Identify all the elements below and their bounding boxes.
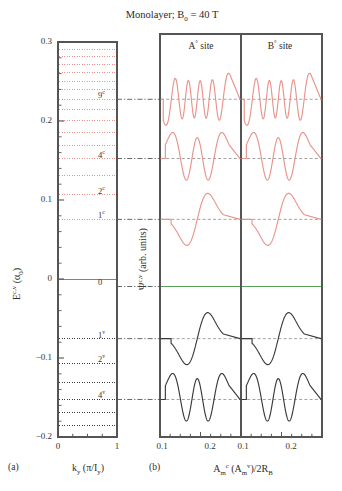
left-axis-xlabel: ky (π/Iy): [72, 462, 104, 475]
left-xtick-0: 0: [56, 441, 61, 451]
right-axis-ylabel: Ψc,v (arb. units): [136, 228, 148, 290]
left-xtick-1: 1: [115, 441, 120, 451]
level-label-4c: 4c: [98, 149, 105, 160]
left-ytick-neg0.1: −0.1: [36, 352, 52, 362]
left-ytick-0.1: 0.1: [41, 194, 52, 204]
right-axis-xlabel: Amc (Amv)/2RB: [213, 462, 273, 476]
site-a-label: A° site: [188, 39, 213, 51]
level-label-2c: 2c: [98, 185, 105, 196]
left-ytick-0.2: 0.2: [41, 115, 52, 125]
left-ytick-0.3: 0.3: [41, 36, 52, 46]
panel-b-tag: (b): [149, 462, 160, 472]
right-xtick-3: 0.2: [286, 441, 297, 451]
right-xtick-1: 0.2: [205, 441, 216, 451]
figure-canvas: [0, 0, 342, 491]
figure-title: Monolayer; B0 = 40 T: [126, 9, 219, 23]
level-label-0: 0: [98, 277, 102, 287]
level-ellipsis-top: ···: [116, 62, 119, 77]
left-axis-ylabel: Ec,v (α0): [10, 268, 24, 300]
right-xtick-0: 0.1: [156, 441, 167, 451]
level-label-4v: 4v: [98, 389, 105, 400]
right-xtick-2: 0.1: [237, 441, 248, 451]
left-ytick-neg0.2: −0.2: [36, 431, 52, 441]
panel-a-tag: (a): [8, 462, 19, 472]
level-label-2v: 2v: [98, 353, 105, 364]
level-label-9c: 9c: [98, 89, 105, 100]
site-b-label: B° site: [268, 39, 293, 51]
level-label-1c: 1c: [98, 209, 105, 220]
level-ellipsis-bottom: ···: [116, 404, 119, 419]
left-ytick-0: 0: [48, 273, 53, 283]
figure-root: [0, 0, 342, 491]
level-label-1v: 1v: [98, 329, 105, 340]
